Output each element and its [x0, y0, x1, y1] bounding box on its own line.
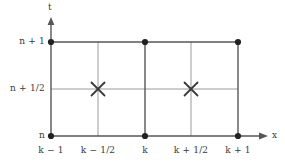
y-tick-label-n-plus-1: n + 1: [0, 37, 45, 46]
y-tick-label-n-plus-half: n + 1/2: [0, 84, 45, 93]
x-axis-label: x: [272, 131, 277, 140]
stencil-diagram-figure: t x n + 1 n + 1/2 n k − 1 k − 1/2 k k + …: [0, 0, 285, 165]
node-k-n: [142, 133, 148, 139]
t-axis-arrowhead-icon: [48, 17, 55, 25]
t-axis-label: t: [48, 3, 52, 12]
node-k-n-1: [142, 39, 148, 45]
t-axis: [48, 17, 55, 136]
node-k-1-plus-n: [235, 133, 241, 139]
node-k-1-n-1: [48, 39, 54, 45]
node-k-1-n: [48, 133, 54, 139]
x-tick-label-k-plus-1: k + 1: [198, 146, 278, 155]
y-tick-label-n: n: [0, 131, 45, 140]
x-axis-arrowhead-icon: [259, 133, 268, 140]
node-k-1-plus-n-1: [235, 39, 241, 45]
